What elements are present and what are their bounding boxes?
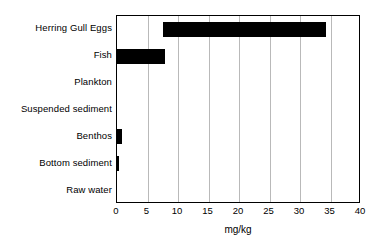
x-tick-label: 10 bbox=[172, 205, 183, 216]
x-tick-label: 25 bbox=[263, 205, 274, 216]
category-label-bottom-sediment: Bottom sediment bbox=[39, 158, 112, 168]
gridline bbox=[300, 16, 301, 202]
x-tick-label: 40 bbox=[355, 205, 366, 216]
gridline bbox=[239, 16, 240, 202]
plot-area bbox=[116, 15, 360, 203]
category-label-raw-water: Raw water bbox=[66, 185, 112, 195]
gridline bbox=[148, 16, 149, 202]
gridline bbox=[178, 16, 179, 202]
bar-benthos bbox=[117, 129, 122, 144]
x-axis-tick-labels: 0510152025303540 bbox=[116, 205, 360, 219]
category-label-plankton: Plankton bbox=[74, 77, 112, 87]
category-label-suspended-sediment: Suspended sediment bbox=[21, 104, 112, 114]
bar-herring-gull-eggs bbox=[163, 22, 325, 37]
category-label-fish: Fish bbox=[94, 50, 112, 60]
x-tick-label: 35 bbox=[324, 205, 335, 216]
x-tick-label: 30 bbox=[294, 205, 305, 216]
x-tick-label: 20 bbox=[233, 205, 244, 216]
y-axis-category-labels: Herring Gull EggsFishPlanktonSuspended s… bbox=[0, 15, 112, 203]
gridline bbox=[209, 16, 210, 202]
x-tick-label: 5 bbox=[144, 205, 149, 216]
bar-chart: Herring Gull EggsFishPlanktonSuspended s… bbox=[0, 0, 380, 251]
category-label-herring-gull-eggs: Herring Gull Eggs bbox=[35, 23, 112, 33]
category-label-benthos: Benthos bbox=[76, 131, 112, 141]
x-axis-title: mg/kg bbox=[116, 224, 360, 236]
gridline bbox=[270, 16, 271, 202]
gridline bbox=[331, 16, 332, 202]
x-tick-label: 15 bbox=[202, 205, 213, 216]
x-tick-label: 0 bbox=[113, 205, 118, 216]
bar-bottom-sediment bbox=[117, 156, 119, 171]
bar-fish bbox=[117, 49, 165, 64]
